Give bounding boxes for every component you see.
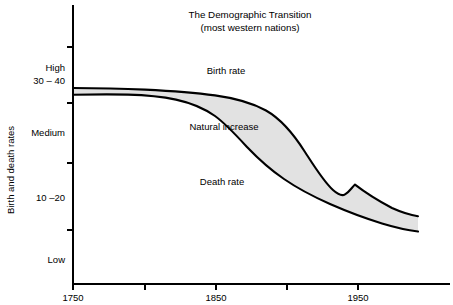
chart-title: The Demographic Transition bbox=[188, 9, 311, 20]
chart-subtitle: (most western nations) bbox=[200, 22, 299, 33]
x-label-1950: 1950 bbox=[347, 292, 368, 303]
demographic-transition-chart: The Demographic Transition (most western… bbox=[0, 0, 453, 305]
death-rate-label: Death rate bbox=[200, 176, 244, 187]
natural-increase-label: Natural increase bbox=[189, 121, 258, 132]
x-label-1750: 1750 bbox=[62, 292, 83, 303]
chart-background bbox=[0, 0, 453, 305]
demographic-transition-figure: The Demographic Transition (most western… bbox=[0, 0, 453, 305]
y-axis-title: Birth and death rates bbox=[5, 126, 16, 214]
x-label-1850: 1850 bbox=[205, 292, 226, 303]
y-label-low-range: 10 –20 bbox=[36, 192, 65, 203]
y-label-high: High bbox=[45, 62, 65, 73]
y-label-low: Low bbox=[48, 254, 66, 265]
y-label-high-range: 30 – 40 bbox=[33, 75, 65, 86]
birth-rate-label: Birth rate bbox=[207, 65, 246, 76]
y-label-medium: Medium bbox=[31, 127, 65, 138]
